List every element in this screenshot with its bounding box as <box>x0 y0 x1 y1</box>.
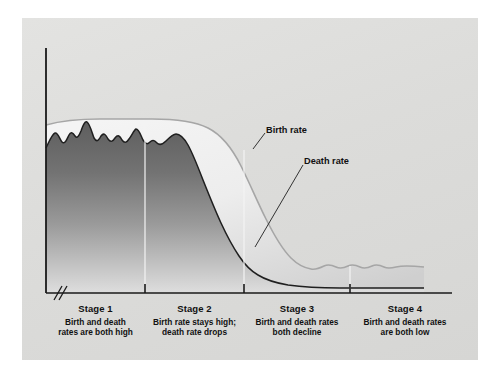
birth-rate-label: Birth rate <box>266 125 307 135</box>
chart-plot-area <box>0 0 494 379</box>
death-rate-label: Death rate <box>304 156 349 166</box>
birth-rate-leader-line <box>253 133 265 149</box>
demographic-transition-figure: Birth rate Death rate Stage 1 Birth and … <box>0 0 494 379</box>
death-rate-leader-line <box>255 165 303 247</box>
